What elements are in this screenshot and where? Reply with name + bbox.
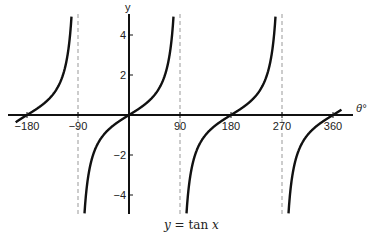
y-tick-label: −4 bbox=[113, 189, 126, 201]
y-tick-label: −2 bbox=[113, 149, 126, 161]
x-tick-label: −90 bbox=[69, 120, 88, 132]
x-tick-label: 270 bbox=[273, 120, 291, 132]
x-axis-label: θ° bbox=[356, 102, 367, 114]
x-tick-label: 180 bbox=[222, 120, 240, 132]
y-axis-label: y bbox=[125, 1, 131, 13]
y-tick-label: 4 bbox=[120, 29, 126, 41]
x-tick-label: 360 bbox=[324, 120, 342, 132]
chart-caption: y = tan x bbox=[163, 218, 219, 232]
x-tick-label: 90 bbox=[174, 120, 186, 132]
y-tick-label: 2 bbox=[120, 69, 126, 81]
tan-graph: −180−9090180270360 42−2−4 y θ° y = tan x bbox=[0, 0, 369, 234]
